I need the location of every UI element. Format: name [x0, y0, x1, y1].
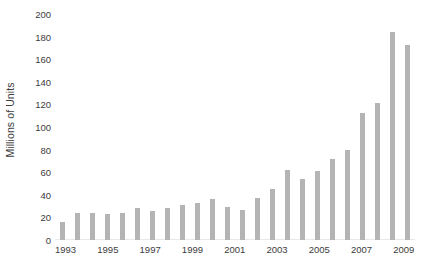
bar-series: [55, 14, 415, 240]
bar-slot: [265, 14, 280, 240]
x-axis-tick-slot: 2007: [351, 244, 372, 264]
y-axis-tick: 60: [40, 167, 51, 178]
x-axis-tick-slot: 2005: [309, 244, 330, 264]
x-axis-tick-slot: 2009: [393, 244, 414, 264]
bar-slot: [115, 14, 130, 240]
bar-slot: [100, 14, 115, 240]
bar-slot: [130, 14, 145, 240]
y-axis-title-label: Millions of Units: [4, 82, 16, 157]
bar-chart: Millions of Units 2001801601401201008060…: [0, 0, 421, 271]
bar: [105, 214, 110, 240]
bar-slot: [55, 14, 70, 240]
bar-slot: [85, 14, 100, 240]
bar-slot: [400, 14, 415, 240]
y-axis-tick: 40: [40, 189, 51, 200]
x-axis-tick: 1995: [97, 244, 118, 255]
bar: [255, 198, 260, 240]
bar: [330, 159, 335, 240]
x-axis-tick: 1993: [55, 244, 76, 255]
bar: [75, 213, 80, 240]
x-axis-tick-slot: 2008: [372, 244, 393, 264]
bar: [150, 211, 155, 240]
bar-slot: [295, 14, 310, 240]
bar: [225, 207, 230, 240]
y-axis-tick: 0: [46, 235, 51, 246]
x-axis-tick-slot: 1996: [118, 244, 139, 264]
bar: [270, 189, 275, 240]
bar-slot: [220, 14, 235, 240]
bar: [285, 170, 290, 240]
x-axis-tick-slot: 1994: [76, 244, 97, 264]
bar-slot: [340, 14, 355, 240]
bar-slot: [205, 14, 220, 240]
bar-slot: [310, 14, 325, 240]
bar-slot: [235, 14, 250, 240]
y-axis-title: Millions of Units: [0, 0, 20, 240]
x-axis-tick-slot: 1999: [182, 244, 203, 264]
x-axis-tick: 2001: [224, 244, 245, 255]
x-axis-tick-slot: 2002: [245, 244, 266, 264]
x-axis-tick-slot: 2003: [266, 244, 287, 264]
bar: [345, 150, 350, 240]
bar-slot: [250, 14, 265, 240]
x-axis-tick-slot: 2010: [414, 244, 421, 264]
bar-slot: [280, 14, 295, 240]
x-axis-tick: 1997: [140, 244, 161, 255]
x-axis-tick: 1999: [182, 244, 203, 255]
bar-slot: [355, 14, 370, 240]
x-axis-tick-slot: 2006: [330, 244, 351, 264]
bar: [165, 208, 170, 240]
x-axis-tick-slot: 1997: [140, 244, 161, 264]
bar: [210, 199, 215, 240]
bar: [240, 210, 245, 241]
x-axis-tick-slot: 2001: [224, 244, 245, 264]
bar: [120, 213, 125, 240]
bar-slot: [385, 14, 400, 240]
x-axis-tick: 2009: [393, 244, 414, 255]
y-axis-tick: 160: [35, 54, 51, 65]
bar-slot: [145, 14, 160, 240]
bar: [90, 213, 95, 240]
x-axis-tick-slot: 2004: [288, 244, 309, 264]
y-axis-tick: 100: [35, 122, 51, 133]
bar: [60, 222, 65, 240]
y-axis-tick: 200: [35, 9, 51, 20]
y-axis-tick: 140: [35, 76, 51, 87]
bar-slot: [325, 14, 340, 240]
y-axis-tick: 80: [40, 144, 51, 155]
y-axis-tick: 20: [40, 212, 51, 223]
x-axis-tick-labels: 1993199419951996199719981999200020012002…: [55, 244, 415, 264]
bar-slot: [190, 14, 205, 240]
plot-area: [55, 14, 415, 240]
bar: [390, 32, 395, 240]
x-axis-tick-slot: 2000: [203, 244, 224, 264]
y-axis-tick: 180: [35, 31, 51, 42]
bar: [405, 45, 410, 240]
x-axis-tick-slot: 1995: [97, 244, 118, 264]
bar: [315, 171, 320, 240]
x-axis-tick-slot: 1998: [161, 244, 182, 264]
bar-slot: [370, 14, 385, 240]
bar: [195, 203, 200, 240]
x-axis-tick-slot: 1993: [55, 244, 76, 264]
x-axis-tick: 2003: [266, 244, 287, 255]
bar-slot: [175, 14, 190, 240]
x-axis-tick: 2005: [309, 244, 330, 255]
bar: [180, 205, 185, 240]
bar: [300, 179, 305, 240]
bar-slot: [70, 14, 85, 240]
y-axis-tick-labels: 200180160140120100806040200: [20, 14, 54, 240]
bar: [135, 208, 140, 240]
bar: [360, 113, 365, 240]
x-axis-tick: 2007: [351, 244, 372, 255]
bar: [375, 103, 380, 240]
y-axis-tick: 120: [35, 99, 51, 110]
bar-slot: [160, 14, 175, 240]
